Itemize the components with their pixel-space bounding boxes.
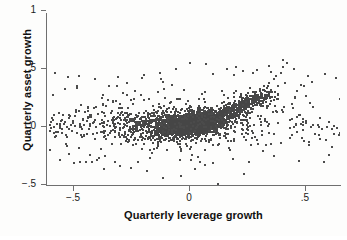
data-point (104, 135, 106, 137)
data-point (174, 117, 176, 119)
data-point (218, 124, 220, 126)
data-point (217, 183, 219, 185)
data-point (204, 149, 206, 151)
data-point (166, 116, 168, 118)
data-point (53, 126, 55, 128)
data-point (163, 88, 165, 90)
data-point (241, 128, 243, 130)
data-point (59, 123, 61, 125)
data-point (122, 114, 124, 116)
data-point (282, 66, 284, 68)
data-point (284, 82, 286, 84)
y-tick-mark (41, 184, 46, 185)
data-point (231, 105, 233, 107)
data-point (153, 148, 155, 150)
data-point (195, 134, 197, 136)
data-point (307, 75, 309, 77)
data-point (303, 85, 305, 87)
data-point (339, 132, 340, 134)
data-point (150, 122, 152, 124)
data-point (114, 127, 116, 129)
data-point (199, 123, 201, 125)
data-point (198, 117, 200, 119)
data-point (165, 110, 167, 112)
data-point (213, 129, 215, 131)
data-point (97, 113, 99, 115)
data-point (220, 117, 222, 119)
data-point (185, 138, 187, 140)
data-point (119, 123, 121, 125)
data-point (190, 106, 192, 108)
data-point (124, 133, 126, 135)
data-point (291, 103, 293, 105)
data-point (212, 123, 214, 125)
data-point (135, 143, 137, 145)
data-point (335, 77, 337, 79)
data-point (213, 116, 215, 118)
data-point (142, 132, 144, 134)
data-point (80, 134, 82, 136)
data-point (66, 145, 68, 147)
data-point (141, 116, 143, 118)
data-point (302, 124, 304, 126)
data-point (171, 84, 173, 86)
data-point (144, 138, 146, 140)
data-point (126, 94, 128, 96)
data-point (234, 116, 236, 118)
data-point (189, 109, 191, 111)
data-point (109, 132, 111, 134)
data-point (150, 139, 152, 141)
data-point (179, 116, 181, 118)
data-point (76, 132, 78, 134)
data-point (210, 128, 212, 130)
data-point (251, 101, 253, 103)
data-point (256, 69, 258, 71)
data-point (260, 124, 262, 126)
data-point (181, 138, 183, 140)
data-point (114, 130, 116, 132)
data-point (163, 105, 165, 107)
data-point (190, 122, 192, 124)
data-point (163, 122, 165, 124)
data-point (286, 62, 288, 64)
data-point (277, 122, 279, 124)
data-point (79, 161, 81, 163)
data-point (246, 119, 248, 121)
data-point (145, 110, 147, 112)
data-point (126, 125, 128, 127)
data-point (94, 78, 96, 80)
data-point (275, 75, 277, 77)
data-point (302, 118, 304, 120)
data-point (324, 73, 326, 75)
data-point (246, 128, 248, 130)
data-point (189, 62, 191, 64)
data-point (55, 131, 57, 133)
data-point (118, 134, 120, 136)
data-point (148, 98, 150, 100)
data-point (252, 132, 254, 134)
data-point (129, 120, 131, 122)
data-point (263, 99, 265, 101)
data-point (111, 143, 113, 145)
data-point (254, 92, 256, 94)
data-point (159, 72, 161, 74)
data-point (117, 76, 119, 78)
data-point (252, 95, 254, 97)
data-point (260, 115, 262, 117)
data-point (131, 118, 133, 120)
data-point (273, 99, 275, 101)
data-point (104, 115, 106, 117)
data-point (242, 70, 244, 72)
data-point (123, 126, 125, 128)
data-point (210, 116, 212, 118)
data-point (191, 139, 193, 141)
data-point (280, 142, 282, 144)
data-point (198, 113, 200, 115)
data-point (261, 134, 263, 136)
data-point (254, 136, 256, 138)
data-point (65, 143, 67, 145)
data-point (216, 127, 218, 129)
data-point (198, 98, 200, 100)
data-point (103, 136, 105, 138)
data-point (143, 99, 145, 101)
